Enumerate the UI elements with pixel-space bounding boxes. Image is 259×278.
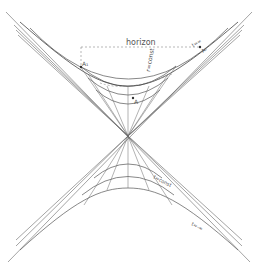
points xyxy=(80,46,201,99)
spacetime-diagram: horizon r=const t=∞ A₁ A₂ A t=const t=-∞ xyxy=(0,0,259,278)
dashed-horizon xyxy=(81,47,200,86)
upper-hyperbola-main xyxy=(20,22,238,86)
r-const-label: r=const xyxy=(144,47,155,72)
a1-label: A₁ xyxy=(82,60,89,67)
horizon-label: horizon xyxy=(126,38,156,47)
asymptote-lines xyxy=(6,12,252,262)
a-label: A xyxy=(134,98,139,105)
t-const-label: t=const xyxy=(153,174,173,189)
t-minus-inf-label: t=-∞ xyxy=(191,221,205,232)
lower-hyperbolas xyxy=(20,164,238,250)
